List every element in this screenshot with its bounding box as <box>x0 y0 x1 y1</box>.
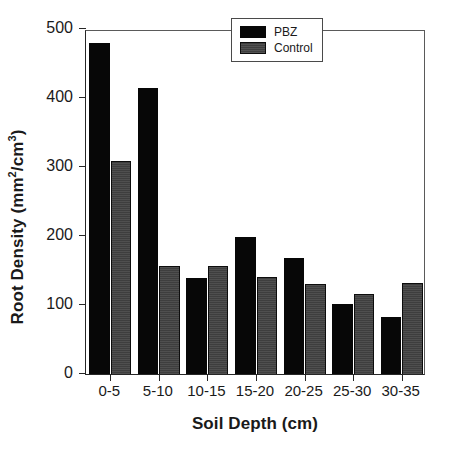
y-axis-tick-label: 200 <box>46 226 73 244</box>
y-axis-title-text: Root Density (mm2/cm3) <box>8 130 28 325</box>
y-axis-tick-label: 0 <box>64 364 73 382</box>
chart-legend: PBZ Control <box>231 18 323 62</box>
y-axis-tick-label: 400 <box>46 88 73 106</box>
plot-area: 0100200300400500 <box>85 30 425 375</box>
legend-item-control: Control <box>240 42 313 54</box>
legend-label-pbz: PBZ <box>274 26 297 38</box>
bar-pbz-20-25 <box>284 258 305 374</box>
x-axis-tick <box>353 374 354 381</box>
root-density-bar-chart: Root Density (mm2/cm3) 0100200300400500 … <box>0 0 450 454</box>
bar-pbz-5-10 <box>138 88 159 374</box>
bar-control-30-35 <box>402 283 423 374</box>
y-axis-tick: 100 <box>79 304 86 305</box>
y-axis-tick: 300 <box>79 166 86 167</box>
y-axis-tick: 200 <box>79 235 86 236</box>
y-axis-tick: 400 <box>79 97 86 98</box>
x-axis-tick-label: 30-35 <box>371 382 431 399</box>
x-axis-tick <box>305 374 306 381</box>
x-axis-tick <box>110 374 111 381</box>
x-axis-tick <box>207 374 208 381</box>
bar-pbz-0-5 <box>89 43 110 374</box>
bar-pbz-10-15 <box>186 278 207 374</box>
x-axis-title: Soil Depth (cm) <box>85 414 425 434</box>
legend-swatch-pbz <box>240 26 266 38</box>
x-axis-tick <box>256 374 257 381</box>
bar-control-0-5 <box>111 161 132 374</box>
y-axis-tick: 0 <box>79 373 86 374</box>
y-axis-tick-label: 100 <box>46 295 73 313</box>
legend-item-pbz: PBZ <box>240 26 313 38</box>
y-axis-tick-label: 500 <box>46 19 73 37</box>
x-axis-tick <box>159 374 160 381</box>
bar-pbz-25-30 <box>332 304 353 374</box>
legend-label-control: Control <box>274 42 313 54</box>
bar-control-20-25 <box>305 284 326 374</box>
bar-control-5-10 <box>159 266 180 374</box>
bar-pbz-15-20 <box>235 237 256 374</box>
bar-pbz-30-35 <box>381 317 402 374</box>
y-axis-title: Root Density (mm2/cm3) <box>0 0 36 454</box>
y-axis-tick-label: 300 <box>46 157 73 175</box>
y-axis-tick: 500 <box>79 28 86 29</box>
legend-swatch-control <box>240 42 266 54</box>
bar-control-15-20 <box>257 277 278 374</box>
bar-control-10-15 <box>208 266 229 374</box>
bar-control-25-30 <box>354 294 375 374</box>
x-axis-tick <box>402 374 403 381</box>
